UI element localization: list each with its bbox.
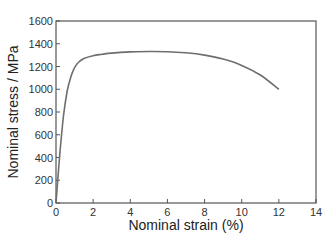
chart: 0246810121402004006008001000120014001600…	[0, 0, 334, 245]
plot-border	[56, 21, 316, 203]
x-tick-label: 2	[90, 206, 96, 218]
y-tick-label: 1400	[29, 38, 53, 50]
x-tick-label: 0	[53, 206, 59, 218]
y-axis-label: Nominal stress / MPa	[5, 45, 21, 178]
y-tick-label: 600	[35, 129, 53, 141]
y-tick-label: 800	[35, 106, 53, 118]
y-tick-label: 400	[35, 152, 53, 164]
y-tick-label: 1200	[29, 61, 53, 73]
stress-strain-curve	[56, 51, 279, 203]
x-axis-label: Nominal strain (%)	[128, 217, 243, 233]
axis-ticks: 0246810121402004006008001000120014001600	[29, 15, 323, 218]
x-tick-label: 14	[310, 206, 322, 218]
y-tick-label: 1000	[29, 83, 53, 95]
plot-frame	[56, 21, 316, 203]
y-tick-label: 200	[35, 174, 53, 186]
x-tick-label: 12	[273, 206, 285, 218]
y-tick-label: 1600	[29, 15, 53, 27]
y-tick-label: 0	[47, 197, 53, 209]
